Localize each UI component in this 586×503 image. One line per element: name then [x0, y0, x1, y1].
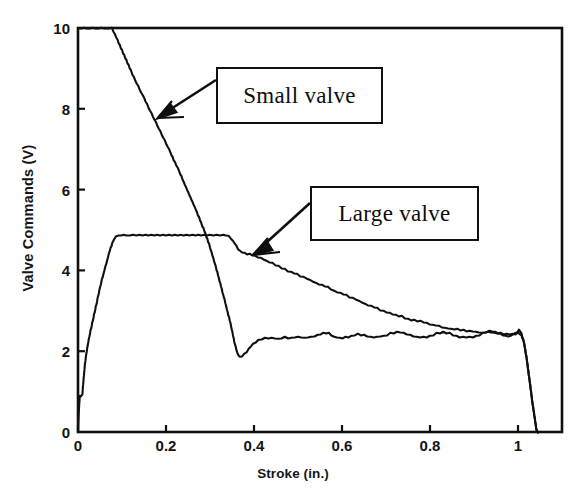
y-tick-label: 10 — [26, 20, 70, 37]
annotation-label-large-valve: Large valve — [338, 201, 450, 227]
y-tick-label: 2 — [26, 343, 70, 360]
x-tick-label: 1 — [514, 437, 522, 454]
y-tick-label: 0 — [26, 424, 70, 441]
x-axis-title: Stroke (in.) — [0, 466, 586, 481]
annotation-label-small-valve: Small valve — [243, 83, 356, 109]
y-axis-title: Valve Commands (V) — [20, 128, 36, 308]
x-tick-label: 0.8 — [420, 437, 441, 454]
x-tick-label: 0.4 — [244, 437, 265, 454]
x-tick-label: 0.6 — [332, 437, 353, 454]
y-tick-label: 4 — [26, 262, 70, 279]
x-tick-label: 0 — [74, 437, 82, 454]
x-tick-label: 0.2 — [156, 437, 177, 454]
annotation-box-small-valve: Small valve — [216, 67, 383, 124]
annotation-box-large-valve: Large valve — [310, 186, 479, 241]
y-tick-label: 6 — [26, 181, 70, 198]
y-tick-label: 8 — [26, 100, 70, 117]
